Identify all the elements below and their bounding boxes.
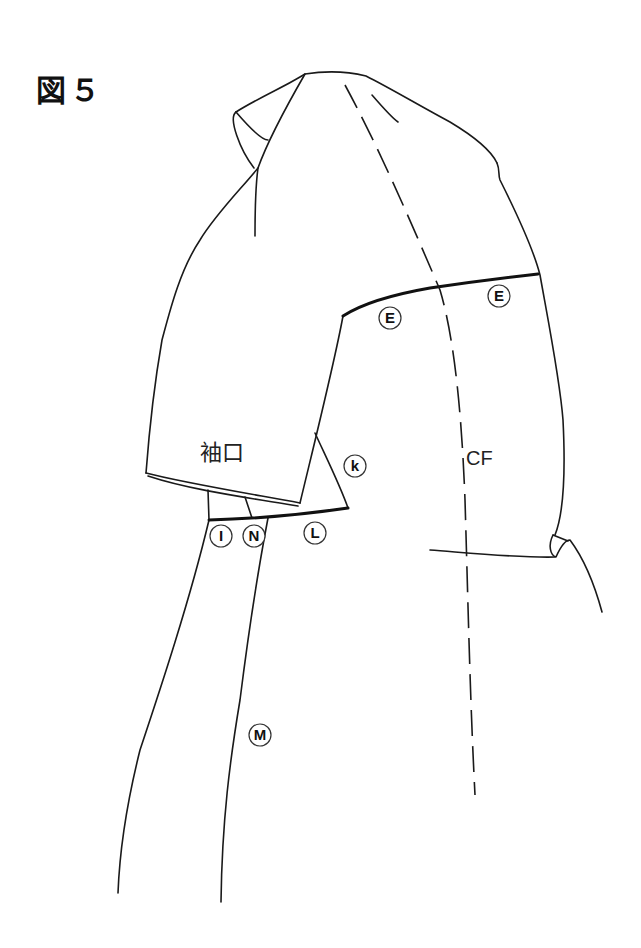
point-n-label: N [249,527,260,544]
sleeve-outer-edge [146,168,258,473]
pattern-drawing: 袖口 CF E E k L I N M [0,0,641,948]
point-e2-label: E [494,287,504,304]
point-i-label: I [219,527,223,544]
figure-title: 図５ [36,66,104,110]
sleeve-inner-edge [300,316,343,503]
point-m-label: M [254,726,267,743]
gusset-k [315,433,348,508]
lower-sleeve-right [221,518,268,902]
bodice-side-seam [497,163,564,535]
point-l-label: L [310,524,319,541]
lower-sleeve-left [118,520,209,893]
cuff-label: 袖口 [200,440,244,465]
collar-outline [236,72,497,163]
back-fold [550,535,602,612]
point-e1-label: E [385,309,395,326]
point-k-label: k [351,457,360,474]
collar-fold-inner [236,112,268,140]
center-front-line [345,85,475,795]
cuff-band-left [208,490,209,520]
diagram-canvas: 図５ [0,0,641,948]
sleeve-hem-upper [146,473,300,503]
cuff-band-divider [245,497,252,518]
bodice-hem [430,550,555,557]
center-front-label: CF [466,447,493,469]
collar-secondary [372,95,398,122]
cuff-seam-L [209,508,348,520]
back-fold-top [553,535,568,541]
sleeve-hem-lower [148,476,298,506]
collar-stand [255,74,305,236]
